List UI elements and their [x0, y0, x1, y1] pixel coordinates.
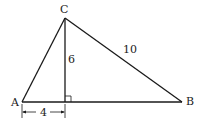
- altitude-label: 6: [68, 53, 75, 66]
- vertex-label-c: C: [60, 3, 68, 16]
- right-angle-marker: [65, 96, 71, 102]
- arrowhead-right-icon: [61, 111, 65, 114]
- hypotenuse-label: 10: [123, 43, 137, 56]
- side-cb: [65, 18, 182, 102]
- vertex-label-a: A: [10, 96, 20, 109]
- arrowhead-left-icon: [22, 111, 26, 114]
- vertex-label-b: B: [186, 95, 194, 108]
- side-ac: [22, 18, 65, 102]
- triangle-diagram: C A B 6 10 4: [0, 0, 201, 125]
- segment-label: 4: [40, 106, 47, 119]
